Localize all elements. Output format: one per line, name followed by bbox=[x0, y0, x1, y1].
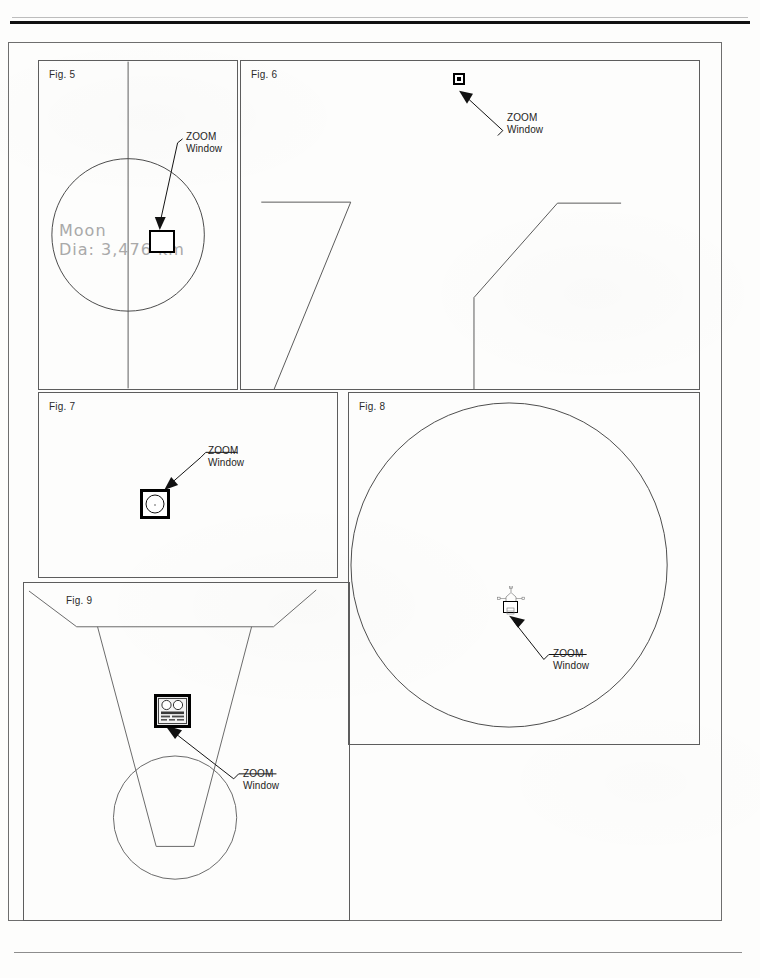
fig8-zoom-callout-line1: ZOOM bbox=[553, 648, 589, 660]
fig5-moon-annotation-line1: Moon bbox=[59, 221, 107, 240]
fig5-zoom-callout: ZOOM Window bbox=[186, 131, 222, 155]
fig7-zoom-window-circle bbox=[144, 493, 166, 515]
fig8-zoom-window-contents bbox=[504, 606, 517, 616]
fig6-zoom-callout: ZOOM Window bbox=[507, 112, 543, 136]
scanned-page: Fig. 5 Moon Dia: 3,476 km ZOOM Window Fi… bbox=[0, 0, 760, 978]
fig6-zoom-callout-line2: Window bbox=[507, 124, 543, 136]
fig6-zoom-callout-line1: ZOOM bbox=[507, 112, 543, 124]
fig9-line-art bbox=[24, 583, 349, 920]
fig9-zoom-window[interactable] bbox=[154, 694, 191, 728]
figure-panel-fig8: Fig. 8 bbox=[348, 392, 700, 745]
fig5-zoom-window[interactable] bbox=[149, 230, 175, 253]
footer-rule bbox=[14, 952, 742, 953]
fig9-zoom-callout-line1: ZOOM bbox=[243, 768, 279, 780]
fig9-zoom-callout: ZOOM Window bbox=[243, 768, 279, 792]
figure-panel-fig5: Fig. 5 Moon Dia: 3,476 km ZOOM Window bbox=[38, 60, 238, 390]
fig5-zoom-callout-line1: ZOOM bbox=[186, 131, 222, 143]
fig6-line-art bbox=[241, 61, 699, 389]
fig8-zoom-callout-line2: Window bbox=[553, 660, 589, 672]
fig7-zoom-window[interactable] bbox=[140, 489, 170, 519]
header-rule-thick bbox=[10, 21, 750, 24]
fig5-zoom-callout-line2: Window bbox=[186, 143, 222, 155]
fig7-zoom-callout-line1: ZOOM bbox=[208, 445, 244, 457]
fig9-zoom-window-contents bbox=[158, 698, 187, 724]
fig6-zoom-window-core bbox=[457, 77, 461, 81]
fig6-zoom-window[interactable] bbox=[453, 73, 465, 85]
fig9-zoom-callout-line2: Window bbox=[243, 780, 279, 792]
fig8-zoom-callout: ZOOM Window bbox=[553, 648, 589, 672]
fig7-line-art bbox=[39, 393, 337, 577]
fig8-line-art bbox=[349, 393, 699, 744]
header-rule-hairline bbox=[12, 17, 748, 18]
fig8-zoom-window[interactable] bbox=[503, 601, 518, 613]
fig7-zoom-callout: ZOOM Window bbox=[208, 445, 244, 469]
figure-panel-fig7: Fig. 7 ZOOM Window bbox=[38, 392, 338, 578]
figure-panel-fig6: Fig. 6 ZOOM Window bbox=[240, 60, 700, 390]
figure-panel-fig9: Fig. 9 bbox=[23, 582, 350, 921]
fig7-zoom-callout-line2: Window bbox=[208, 457, 244, 469]
